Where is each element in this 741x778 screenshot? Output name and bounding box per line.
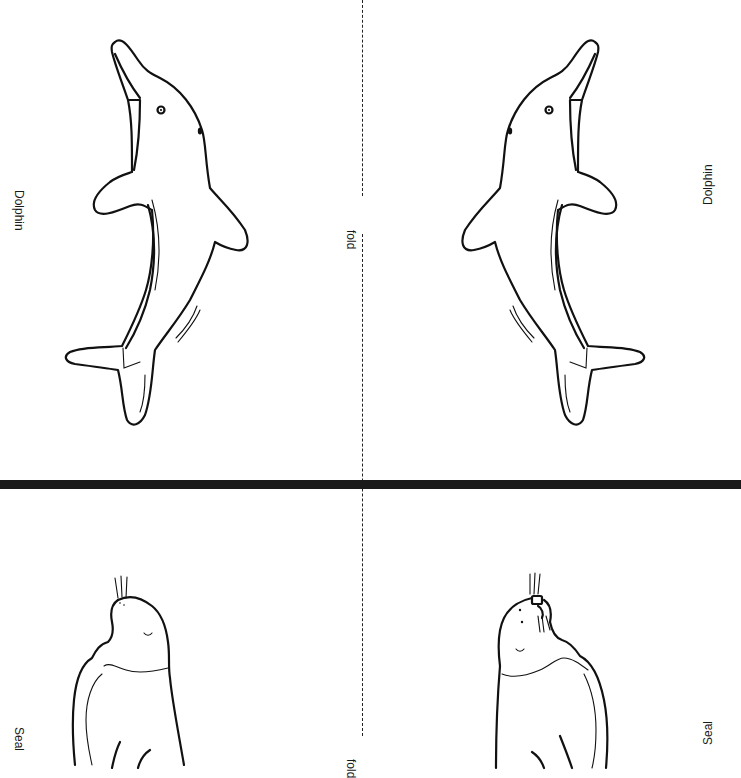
seal-icon bbox=[480, 570, 640, 770]
dolphin-illustration-right bbox=[445, 30, 655, 430]
dolphin-icon bbox=[445, 30, 655, 430]
fold-label-bottom: fold bbox=[345, 759, 357, 778]
seal-label-left: Seal bbox=[13, 727, 25, 751]
dolphin-label-right: Dolphin bbox=[702, 164, 714, 205]
fold-line-top bbox=[362, 0, 363, 196]
seal-illustration-left bbox=[60, 570, 240, 770]
dolphin-label-left: Dolphin bbox=[13, 190, 25, 231]
fold-label-top: fold bbox=[345, 230, 357, 249]
dolphin-illustration-left bbox=[60, 30, 260, 430]
seal-label-right: Seal bbox=[702, 721, 714, 745]
dolphin-icon bbox=[60, 30, 260, 430]
seal-icon bbox=[60, 570, 240, 770]
cut-divider bbox=[0, 480, 741, 489]
seal-illustration-right bbox=[480, 570, 640, 770]
